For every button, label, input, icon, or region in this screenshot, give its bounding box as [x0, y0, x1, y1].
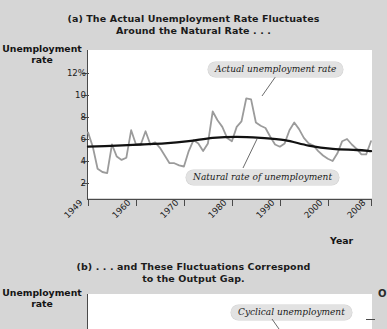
panel-b-y-tick-mark — [366, 319, 375, 320]
edge-letter-fragment: O — [378, 288, 387, 299]
leader-line-cyclical — [272, 319, 279, 329]
panel-b-leader-svg — [0, 0, 387, 329]
